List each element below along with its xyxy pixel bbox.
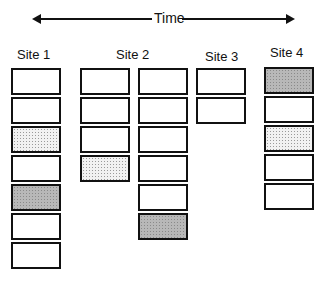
site-3-label: Site 3: [205, 49, 238, 64]
axis-line-left: [34, 18, 152, 20]
site-1-box-empty: [11, 97, 61, 124]
site-2-label: Site 2: [116, 47, 149, 62]
site-4-label: Site 4: [270, 45, 303, 60]
site-2-box-empty: [138, 126, 188, 153]
site-2-box-empty: [138, 68, 188, 95]
site-1-box-dotted: [11, 126, 61, 153]
site-1-box-gray: [11, 184, 61, 211]
time-axis-label: Time: [154, 10, 185, 26]
site-1-box-empty: [11, 155, 61, 182]
site-3-box-empty: [196, 97, 246, 124]
site-4-box-empty: [264, 154, 314, 181]
site-1-box-empty: [11, 213, 61, 240]
site-2-box-empty: [80, 97, 130, 124]
site-1-box-empty: [11, 242, 61, 269]
time-axis: Time: [32, 10, 295, 26]
site-3-box-empty: [196, 68, 246, 95]
site-2-box-empty: [138, 184, 188, 211]
site-2-box-empty: [80, 68, 130, 95]
site-2-box-empty: [80, 126, 130, 153]
axis-line-right: [182, 18, 293, 20]
site-4-box-empty: [264, 183, 314, 210]
site-4-box-empty: [264, 96, 314, 123]
site-4-box-dotted: [264, 125, 314, 152]
site-2-box-empty: [138, 97, 188, 124]
site-1-box-empty: [11, 68, 61, 95]
site-2-box-gray: [138, 213, 188, 240]
site-4-box-gray: [264, 67, 314, 94]
site-1-label: Site 1: [17, 47, 50, 62]
site-2-box-empty: [138, 155, 188, 182]
arrow-right-icon: [286, 14, 295, 24]
site-2-box-dotted: [80, 155, 130, 182]
